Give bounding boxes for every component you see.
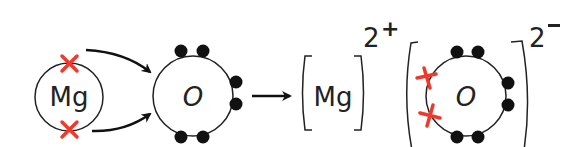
mg-ion-label: Mg	[314, 82, 353, 112]
dot-icon	[197, 45, 210, 58]
dot-icon	[197, 131, 210, 144]
dot-icon	[175, 45, 188, 58]
mg-ion-charge-number: 2	[363, 23, 380, 53]
mg-ion-charge-sign: +	[381, 16, 399, 41]
right-bracket	[511, 41, 528, 147]
electron-transfer-arrow-bottom	[92, 114, 150, 131]
dot-icon	[175, 131, 188, 144]
left-bracket	[407, 42, 418, 147]
dot-icon	[451, 131, 464, 144]
o-ion: O 2	[407, 23, 560, 147]
o-ion-label: O	[456, 82, 476, 112]
dot-icon	[472, 131, 485, 144]
left-bracket	[303, 56, 313, 130]
dot-icon	[472, 46, 485, 59]
cross-icon	[62, 122, 77, 137]
mg-atom: Mg	[35, 56, 103, 137]
mg-atom-label: Mg	[50, 82, 89, 112]
cross-icon	[417, 68, 436, 88]
dot-icon	[230, 76, 243, 89]
mg-ion: Mg 2 +	[303, 16, 400, 130]
o-atom-label: O	[183, 82, 203, 112]
o-atom: O	[153, 45, 243, 144]
ionic-bonding-diagram: Mg O Mg 2 + O	[0, 0, 583, 147]
o-ion-charge-sign	[548, 24, 560, 27]
o-ion-charge-number: 2	[529, 23, 546, 53]
dot-icon	[451, 46, 464, 59]
right-bracket	[354, 56, 364, 130]
dot-icon	[230, 98, 243, 111]
dot-icon	[502, 99, 515, 112]
electron-transfer-arrow-top	[86, 50, 150, 72]
dot-icon	[502, 77, 515, 90]
